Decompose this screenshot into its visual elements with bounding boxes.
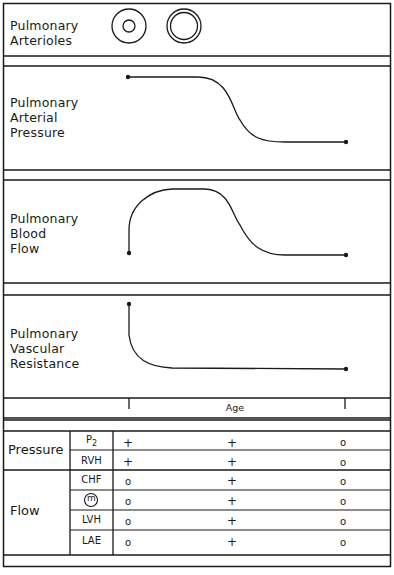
cell-value: + xyxy=(118,436,138,450)
arterioles-label: Pulmonary Arterioles xyxy=(10,18,78,48)
sign-lvh: LVH xyxy=(70,514,113,525)
thick-wall-arteriole-icon xyxy=(112,9,146,43)
cell-value: o xyxy=(333,496,353,507)
flow-curve xyxy=(129,189,346,255)
sign-murmur: m xyxy=(70,493,113,503)
cell-value: + xyxy=(222,494,242,508)
cell-value: + xyxy=(222,535,242,549)
cell-value: o xyxy=(333,476,353,487)
label-line: Pulmonary xyxy=(10,326,79,341)
group-label-flow: Flow xyxy=(10,503,40,518)
age-axis-label: Age xyxy=(200,402,270,413)
cell-value: + xyxy=(222,474,242,488)
cell-value: o xyxy=(333,516,353,527)
cell-value: + xyxy=(222,455,242,469)
cell-value: o xyxy=(118,537,138,548)
cell-value: o xyxy=(333,537,353,548)
label-line: Flow xyxy=(10,241,78,256)
cell-value: o xyxy=(118,516,138,527)
label-line: Pressure xyxy=(10,125,78,140)
flow-label: Pulmonary Blood Flow xyxy=(10,211,78,256)
label-line: Vascular xyxy=(10,341,79,356)
sign-sub: 2 xyxy=(92,439,97,448)
label-line: Pulmonary xyxy=(10,95,78,110)
thin-wall-arteriole-icon xyxy=(167,9,201,43)
label-line: Arterial xyxy=(10,110,78,125)
label-line: Pulmonary xyxy=(10,18,78,33)
sign-lae: LAE xyxy=(70,535,113,546)
label-line: Resistance xyxy=(10,356,79,371)
resistance-label: Pulmonary Vascular Resistance xyxy=(10,326,79,371)
cell-value: o xyxy=(118,496,138,507)
pressure-curve xyxy=(128,77,346,142)
cell-value: + xyxy=(118,455,138,469)
cell-value: o xyxy=(333,437,353,448)
sign-chf: CHF xyxy=(70,474,113,485)
label-line: Arterioles xyxy=(10,33,78,48)
cell-value: + xyxy=(222,436,242,450)
pressure-label: Pulmonary Arterial Pressure xyxy=(10,95,78,140)
cell-value: + xyxy=(222,514,242,528)
resistance-curve xyxy=(129,304,346,369)
cell-value: o xyxy=(333,457,353,468)
group-label-pressure: Pressure xyxy=(8,442,64,457)
label-line: Blood xyxy=(10,226,78,241)
diagram-frame xyxy=(0,0,394,575)
label-line: Pulmonary xyxy=(10,211,78,226)
sign-p2: P2 xyxy=(70,434,113,448)
sign-rvh: RVH xyxy=(70,455,113,466)
cell-value: o xyxy=(118,476,138,487)
